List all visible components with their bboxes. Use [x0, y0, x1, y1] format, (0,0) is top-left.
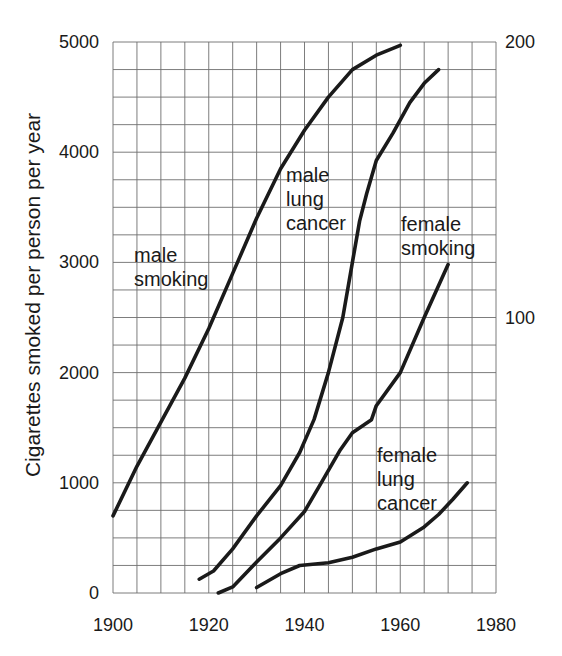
- caption-strip: [0, 645, 562, 656]
- series-label-male-lung-cancer: malelungcancer: [286, 164, 346, 234]
- y-tick-label: 0: [89, 583, 99, 603]
- x-tick-label: 1980: [476, 615, 516, 635]
- y-right-tick-label: 200: [505, 32, 535, 52]
- x-tick-label: 1900: [93, 615, 133, 635]
- series-line-female-smoking: [218, 265, 448, 593]
- y-tick-label: 3000: [59, 252, 99, 272]
- x-tick-label: 1960: [380, 615, 420, 635]
- axes: 1900192019401960198001000200030004000500…: [59, 32, 535, 635]
- y-tick-label: 4000: [59, 142, 99, 162]
- y-right-tick-label: 100: [505, 308, 535, 328]
- x-tick-label: 1920: [189, 615, 229, 635]
- y-tick-label: 2000: [59, 363, 99, 383]
- series-label-female-smoking: femalesmoking: [401, 213, 475, 259]
- x-tick-label: 1940: [284, 615, 324, 635]
- series-label-male-smoking: malesmoking: [134, 244, 208, 290]
- y-tick-label: 1000: [59, 473, 99, 493]
- y-tick-label: 5000: [59, 32, 99, 52]
- y-axis-title: Cigarettes smoked per person per year: [21, 113, 44, 477]
- series-label-female-lung-cancer: femalelungcancer: [377, 444, 437, 514]
- line-chart: malesmokingmalelungcancerfemalesmokingfe…: [0, 0, 562, 656]
